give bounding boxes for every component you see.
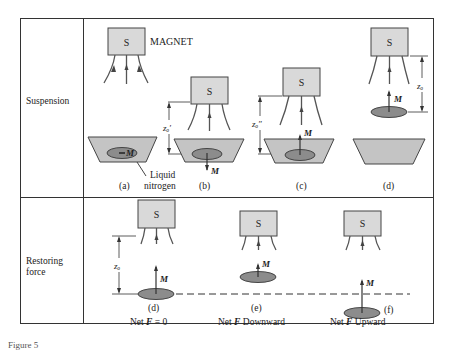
magnet-d: S M: [369, 28, 409, 118]
svg-text:S: S: [387, 37, 393, 48]
liquid-nitrogen-label-2: nitrogen: [144, 181, 176, 191]
svg-text:M: M: [261, 259, 271, 269]
panel-label-restoring-d: (d): [148, 303, 159, 314]
svg-text:S: S: [154, 209, 160, 220]
panel-label-c: (c): [296, 181, 307, 192]
liquid-nitrogen-label-1: Liquid: [150, 170, 176, 180]
net-force-d: Net F = 0: [130, 317, 168, 327]
dish-d: [353, 139, 425, 164]
svg-text:M: M: [125, 148, 135, 158]
panel-label-b: (b): [199, 181, 210, 192]
svg-text:M: M: [393, 94, 403, 104]
svg-text:M: M: [365, 278, 375, 288]
magnet-f: S M: [344, 211, 381, 319]
net-force-f: Net F Upward: [330, 317, 386, 327]
svg-text:S: S: [299, 77, 305, 88]
magnet-e: S M: [240, 211, 277, 283]
panel-label-d: (d): [383, 181, 394, 192]
gap-label-c: zₒ″: [251, 119, 262, 129]
svg-text:S: S: [360, 218, 366, 229]
gap-label-d: zₒ: [416, 81, 424, 91]
svg-text:M: M: [303, 128, 313, 138]
panel-label-f: (f): [384, 305, 394, 316]
superconductor-levitation-diagram: S MAGNET M Liquid nitrogen (a) S zₒ′: [0, 0, 451, 357]
magnet-restoring-d: S M: [138, 200, 175, 300]
panel-label-a: (a): [119, 181, 130, 192]
magnet-c: S: [280, 68, 322, 125]
svg-text:S: S: [207, 86, 213, 97]
dish-b: M: [174, 139, 244, 176]
magnet-pole-label: S: [124, 37, 130, 48]
svg-text:M: M: [210, 166, 220, 176]
figure-caption: Figure 5: [8, 340, 38, 350]
magnet-a: S: [104, 28, 148, 84]
svg-text:M: M: [159, 274, 169, 284]
dish-a: M: [88, 137, 157, 162]
magnet-b: S: [188, 77, 230, 131]
gap-label-restoring: zₒ: [113, 261, 121, 271]
net-force-e: Net F Downward: [218, 317, 285, 327]
gap-label-b: zₒ′: [162, 123, 172, 133]
panel-label-e: (e): [251, 303, 262, 314]
svg-text:S: S: [256, 218, 262, 229]
magnet-label: MAGNET: [150, 36, 193, 47]
dish-c: M: [264, 128, 334, 163]
